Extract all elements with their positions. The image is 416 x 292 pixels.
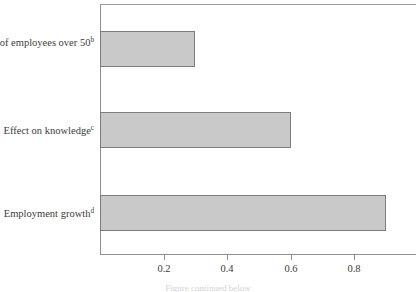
bar-chart-figure: Percent of employees over 50b Effect on … <box>0 0 416 292</box>
x-axis-tick-2 <box>291 255 292 260</box>
x-axis-tick-label-2: 0.6 <box>271 263 311 274</box>
category-label-text: Employment growth <box>4 208 91 219</box>
category-label-text: Effect on knowledge <box>4 125 91 136</box>
cut-off-caption: Figure continued below <box>0 285 416 292</box>
x-axis-tick-label-3: 0.8 <box>334 263 374 274</box>
bar-effect-on-knowledge <box>100 112 291 148</box>
category-label-employment-growth: Employment growthd <box>0 207 94 220</box>
footnote-marker-c: c <box>91 124 94 132</box>
footnote-marker-b: b <box>90 36 94 44</box>
x-axis-tick-1 <box>227 255 228 260</box>
category-label-percent-of-employees-over-50: Percent of employees over 50b <box>0 36 94 49</box>
cut-off-caption-text: Figure continued below <box>0 285 416 292</box>
bar-employment-growth <box>100 195 386 231</box>
x-axis-tick-3 <box>354 255 355 260</box>
category-label-effect-on-knowledge: Effect on knowledgec <box>0 124 94 137</box>
category-label-text: Percent of employees over 50 <box>0 37 90 48</box>
x-axis-tick-0 <box>164 255 165 260</box>
x-axis-tick-label-1: 0.4 <box>207 263 247 274</box>
footnote-marker-d: d <box>90 207 94 215</box>
x-axis-tick-label-0: 0.2 <box>144 263 184 274</box>
bar-percent-of-employees-over-50 <box>100 31 195 67</box>
